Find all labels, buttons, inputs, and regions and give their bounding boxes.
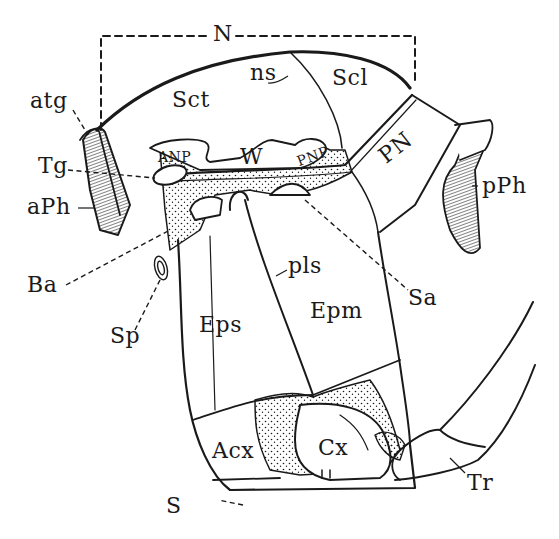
label-episternum: Eps (199, 314, 242, 336)
label-pleural-suture: pls (288, 255, 322, 277)
spiracle (152, 255, 170, 281)
ba-leader (66, 230, 170, 285)
label-subalare: Sa (408, 287, 437, 309)
label-tegula: Tg (38, 155, 68, 177)
label-scutum: Sct (172, 89, 210, 111)
pls-leader (276, 270, 287, 276)
s-leader (218, 500, 243, 505)
label-spiracle: Sp (110, 325, 140, 347)
label-epimeron: Epm (310, 300, 363, 322)
label-basalare: Ba (27, 274, 57, 296)
label-pph: pPh (482, 175, 527, 197)
label-sternum: S (166, 495, 182, 517)
label-scutellum: Scl (332, 67, 368, 89)
atg-leader (73, 110, 88, 135)
label-antecoxal-sclerite: Acx (212, 440, 254, 462)
notum-bracket (101, 36, 210, 130)
label-notum: N (213, 23, 233, 45)
label-aph: aPh (27, 196, 71, 218)
label-ns: ns (250, 62, 276, 84)
label-atg: atg (30, 90, 68, 112)
label-coxa: Cx (318, 437, 348, 459)
thorax-diagram: N ns Sct Scl atg Tg aPh pPh ANP W PNP PN… (0, 0, 559, 539)
label-anp: ANP (158, 150, 191, 164)
label-w: W (240, 146, 263, 168)
diagram-drawing (0, 0, 559, 539)
label-trochanter: Tr (467, 472, 493, 494)
